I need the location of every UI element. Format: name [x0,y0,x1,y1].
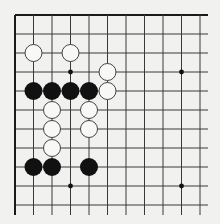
white-stone [62,45,79,62]
go-board-grid [0,0,220,224]
black-stone [62,82,80,100]
white-stone [44,121,61,138]
white-stone [44,140,61,157]
star-point-icon [179,70,184,75]
star-point-icon [68,70,73,75]
white-stone [99,83,116,100]
black-stone [25,158,43,176]
star-point-icon [179,184,184,189]
black-stone [43,82,61,100]
go-board [0,0,220,224]
star-point-icon [68,184,73,189]
black-stone [80,158,98,176]
white-stone [81,121,98,138]
white-stone [81,102,98,119]
white-stone [99,64,116,81]
black-stone [25,82,43,100]
white-stone [44,102,61,119]
black-stone [80,82,98,100]
white-stone [25,45,42,62]
black-stone [43,158,61,176]
